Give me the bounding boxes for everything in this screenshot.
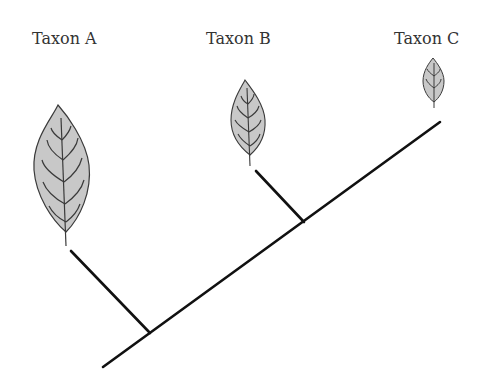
branch-a [71, 251, 150, 333]
cladogram [0, 0, 491, 388]
leaf-c-icon [423, 58, 444, 108]
branch-b [256, 171, 304, 222]
leaf-b-icon [231, 80, 265, 166]
main-branch [103, 122, 440, 367]
leaf-a-icon [34, 105, 90, 246]
